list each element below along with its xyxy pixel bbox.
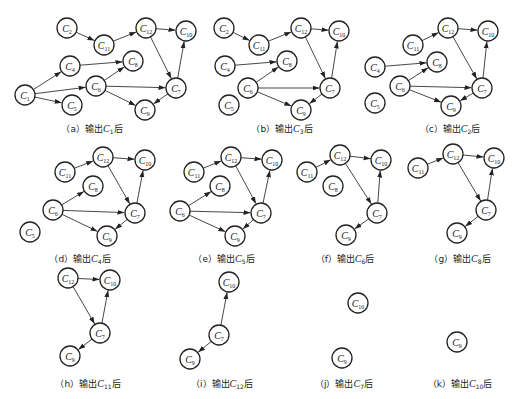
node-c9: C9: [135, 100, 155, 120]
node-c8: C8: [210, 176, 230, 196]
panel-f-nodes: C12C10C11C8C7C9: [297, 145, 391, 245]
caption-prefix: （a）输出: [61, 124, 103, 134]
edge-c1-to-c6: [35, 87, 86, 93]
edge-c7-to-c9: [355, 219, 369, 229]
node-c8: C8: [427, 52, 447, 72]
caption-prefix: （d）输出: [49, 254, 91, 264]
edge-c12-to-c10: [311, 29, 329, 30]
edge-c6-to-c9: [62, 214, 98, 231]
edge-c7-to-c10: [378, 171, 380, 204]
edge-c7-to-c9: [243, 220, 254, 229]
node-c4: C4: [215, 56, 235, 76]
node-c7: C7: [125, 203, 145, 223]
edge-c11-to-c12: [74, 161, 93, 168]
node-c8: C8: [277, 51, 297, 71]
node-c9: C9: [60, 346, 80, 366]
edge-c12-to-c10: [458, 29, 478, 31]
edge-c6-to-c8: [104, 67, 124, 81]
edge-c1-to-c4: [33, 72, 61, 90]
edge-c12-to-c10: [113, 158, 135, 160]
node-c8: C8: [83, 176, 103, 196]
node-c9: C9: [225, 226, 245, 246]
node-c6: C6: [86, 76, 106, 96]
node-c11: C11: [94, 35, 114, 55]
panel-g-nodes: C12C10C11C7C9: [408, 144, 504, 243]
graph-canvas: C2C11C12C10C4C8C1C6C7C5C9C2C11C12C10C4C8…: [0, 0, 515, 399]
node-c12: C12: [443, 144, 463, 164]
node-c5: C5: [62, 95, 82, 115]
caption-panel-d: （d）输出C4后: [49, 252, 110, 265]
edge-c4-to-c8: [235, 62, 277, 65]
node-c9: C9: [332, 348, 352, 368]
node-c10: C10: [484, 148, 504, 168]
edge-c7-to-c10: [483, 41, 487, 78]
edge-c12-to-c7: [108, 166, 130, 204]
node-c11: C11: [297, 162, 317, 182]
caption-suffix: 后: [365, 254, 374, 264]
panel-c-nodes: C11C12C10C4C8C6C7C5C9: [365, 18, 498, 116]
caption-panel-e: （e）输出C5后: [193, 252, 254, 265]
caption-panel-k: （k）输出C10后: [428, 377, 493, 390]
node-c2: C2: [57, 18, 77, 38]
caption-suffix: 后: [246, 254, 255, 264]
caption-prefix: （k）输出: [428, 379, 469, 389]
edge-c12-to-c10: [350, 156, 371, 159]
caption-suffix: 后: [112, 379, 121, 389]
nodes-layer: C2C11C12C10C4C8C1C6C7C5C9C2C11C12C10C4C8…: [15, 18, 504, 369]
panel-k-nodes: C9: [447, 332, 467, 352]
edge-c7-to-c9: [115, 219, 127, 229]
edge-c6-to-c9: [257, 92, 291, 106]
edge-c12-to-c7: [236, 166, 256, 204]
edge-c7-to-c10: [137, 170, 143, 203]
caption-panel-i: （i）输出C12后: [191, 377, 253, 390]
node-c2: C2: [214, 18, 234, 38]
node-c11: C11: [249, 35, 269, 55]
edge-c11-to-c12: [268, 32, 291, 41]
node-c9: C9: [336, 225, 356, 245]
node-c7: C7: [209, 325, 229, 345]
node-c7: C7: [472, 78, 492, 98]
edge-c12-to-c7: [151, 37, 172, 79]
edge-c11-to-c12: [203, 161, 221, 168]
node-c9: C9: [291, 100, 311, 120]
node-c10: C10: [219, 272, 239, 292]
caption-prefix: （i）输出: [191, 379, 230, 389]
node-c10: C10: [135, 150, 155, 170]
edge-c6-to-c8: [189, 192, 212, 206]
node-c11: C11: [55, 162, 75, 182]
edge-c11-to-c12: [427, 158, 443, 164]
caption-node: C: [355, 253, 362, 264]
edge-c7-to-c10: [178, 41, 185, 78]
node-c6: C6: [43, 200, 63, 220]
edge-c7-to-c9: [154, 94, 168, 104]
node-c8: C8: [123, 51, 143, 71]
caption-prefix: （h）输出: [55, 379, 97, 389]
node-c12: C12: [221, 147, 241, 167]
node-c6: C6: [390, 76, 410, 96]
edge-c6-to-c7: [190, 211, 251, 213]
caption-prefix: （f）输出: [316, 254, 355, 264]
node-c10: C10: [329, 21, 349, 41]
caption-prefix: （g）输出: [429, 254, 471, 264]
edge-c6-to-c8: [256, 67, 278, 82]
caption-suffix: 后: [102, 254, 111, 264]
panel-i-nodes: C10C7C9: [180, 272, 239, 369]
node-c7: C7: [367, 203, 387, 223]
edge-c7-to-c10: [332, 41, 338, 78]
caption-prefix: （c）输出: [420, 124, 461, 134]
caption-panel-j: （j）输出C7后: [315, 377, 373, 390]
node-c9: C9: [447, 332, 467, 352]
node-c7: C7: [320, 78, 340, 98]
node-c12: C12: [291, 18, 311, 38]
node-c9: C9: [180, 349, 200, 369]
node-c4: C4: [60, 56, 80, 76]
caption-suffix: 后: [471, 124, 480, 134]
node-c7: C7: [251, 203, 271, 223]
edge-c12-to-c7: [453, 37, 477, 79]
node-c10: C10: [371, 150, 391, 170]
node-c4: C4: [365, 57, 385, 77]
edge-c11-to-c12: [316, 160, 331, 168]
node-c12: C12: [136, 18, 156, 38]
node-c11: C11: [408, 158, 428, 178]
edge-c7-to-c9: [309, 94, 322, 104]
